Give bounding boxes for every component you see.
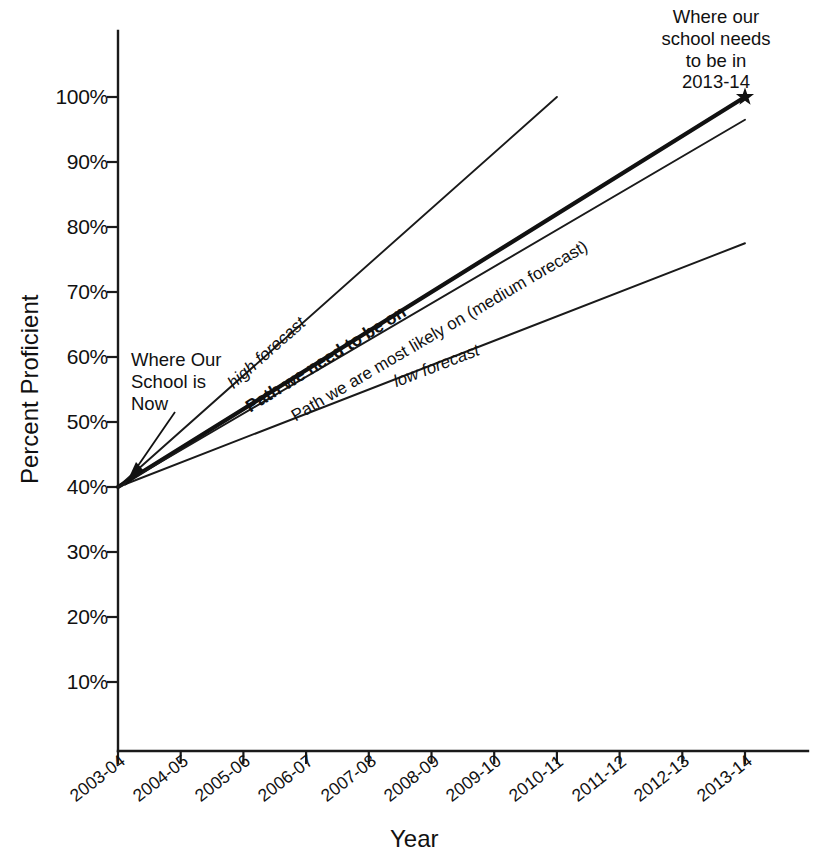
annotation-school-needs-to-be: Where our school needs to be in 2013-14 (646, 6, 786, 93)
series-line (118, 120, 745, 487)
y-axis-title: Percent Proficient (16, 304, 44, 484)
annotation-now-line-1: Where Our (131, 349, 221, 371)
y-tick-label: 90% (20, 150, 108, 174)
chart-plot-area (0, 0, 816, 860)
annotation-goal-line-4: 2013-14 (646, 71, 786, 93)
y-tick-label: 20% (20, 605, 108, 629)
annotation-goal-line-3: to be in (646, 50, 786, 72)
annotation-school-is-now: Where Our School is Now (131, 349, 221, 414)
x-axis-title: Year (390, 825, 439, 853)
series-lines-group (118, 97, 745, 487)
series-line (118, 97, 745, 487)
y-tick-label: 100% (20, 85, 108, 109)
y-tick-label: 30% (20, 540, 108, 564)
annotation-now-line-3: Now (131, 393, 221, 415)
annotation-goal-line-1: Where our (646, 6, 786, 28)
y-tick-label: 80% (20, 215, 108, 239)
annotation-now-line-2: School is (131, 371, 221, 393)
y-tick-label: 10% (20, 670, 108, 694)
chart-container: 100%90%80%70%60%50%40%30%20%10% 2003-042… (0, 0, 816, 860)
annotation-goal-line-2: school needs (646, 28, 786, 50)
y-axis-ticks (107, 97, 118, 682)
